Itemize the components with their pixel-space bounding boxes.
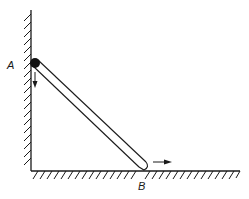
velocity-arrow-a-icon bbox=[33, 72, 38, 88]
end-a-ball bbox=[30, 58, 40, 68]
label-point-a: A bbox=[6, 59, 14, 71]
floor bbox=[31, 171, 240, 179]
wall bbox=[24, 10, 31, 171]
label-point-b: B bbox=[138, 180, 145, 192]
rod bbox=[33, 60, 148, 170]
velocity-arrow-b-icon bbox=[153, 160, 172, 165]
rod-sliding-diagram: A B bbox=[0, 0, 249, 199]
